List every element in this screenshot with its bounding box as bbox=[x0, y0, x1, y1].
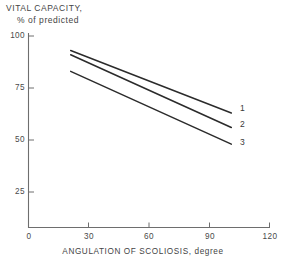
x-tick-label-30: 30 bbox=[77, 232, 101, 241]
series-label-2: 2 bbox=[240, 119, 245, 129]
x-axis-title: ANGULATION OF SCOLIOSIS, degree bbox=[0, 247, 286, 256]
y-tick-label-25: 25 bbox=[3, 187, 25, 196]
series-label-1: 1 bbox=[240, 103, 245, 113]
x-tick-label-0: 0 bbox=[17, 232, 41, 241]
y-axis-title-line1: VITAL CAPACITY, bbox=[6, 3, 82, 15]
y-axis-title-line2: % of predicted bbox=[6, 15, 82, 27]
chart-plot-area bbox=[0, 0, 286, 265]
y-axis-title: VITAL CAPACITY, % of predicted bbox=[6, 3, 82, 26]
y-tick-label-75: 75 bbox=[3, 83, 25, 92]
data-line-series-2 bbox=[71, 55, 232, 128]
x-tick-label-60: 60 bbox=[137, 232, 161, 241]
series-label-3: 3 bbox=[240, 137, 245, 147]
x-tick-label-90: 90 bbox=[198, 232, 222, 241]
y-tick-label-50: 50 bbox=[3, 135, 25, 144]
chart-figure: VITAL CAPACITY, % of predicted 100 75 50… bbox=[0, 0, 286, 265]
x-tick-label-120: 120 bbox=[258, 232, 282, 241]
y-tick-label-100: 100 bbox=[3, 31, 25, 40]
